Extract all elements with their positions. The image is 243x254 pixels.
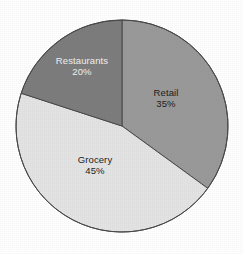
pie-chart: Restaurants 20% Retail 35% Grocery 45%	[0, 0, 243, 254]
pie-slices	[16, 20, 228, 232]
pie-chart-canvas	[0, 0, 243, 254]
